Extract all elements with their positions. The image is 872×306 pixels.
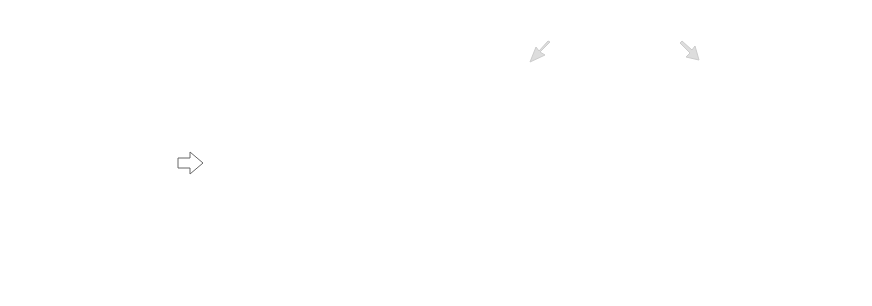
figure-canvas [0,0,872,306]
pointer-arrow-left-icon [530,41,550,62]
pointer-arrow-right-icon [680,41,699,60]
flow-arrow-icon [178,152,203,174]
